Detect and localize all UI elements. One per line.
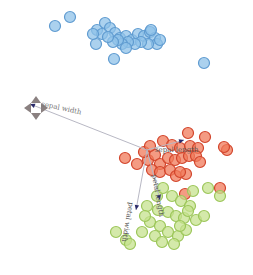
data-point-virginica	[199, 211, 210, 222]
data-point-setosa	[199, 58, 210, 69]
data-point-setosa	[50, 21, 61, 32]
points-layer	[50, 12, 233, 250]
label-sepal-width: sepal width	[41, 100, 83, 116]
label-sepal-length: sepal length	[155, 146, 199, 154]
data-point-virginica	[142, 201, 153, 212]
data-point-setosa	[155, 35, 166, 46]
data-point-virginica	[111, 227, 122, 238]
data-point-versicolor	[200, 132, 211, 143]
label-petal-width: petal width	[120, 202, 135, 243]
data-point-versicolor	[132, 159, 143, 170]
data-point-setosa	[65, 12, 76, 23]
data-point-versicolor	[175, 167, 186, 178]
data-point-virginica	[137, 227, 148, 238]
data-point-virginica	[140, 211, 151, 222]
data-point-versicolor	[195, 157, 206, 168]
data-point-setosa	[146, 25, 157, 36]
data-point-setosa	[91, 39, 102, 50]
data-point-versicolor	[219, 142, 230, 153]
data-point-virginica	[183, 206, 194, 217]
data-point-setosa	[103, 32, 114, 43]
data-point-virginica	[163, 227, 174, 238]
data-point-setosa	[121, 43, 132, 54]
data-point-setosa	[88, 29, 99, 40]
data-point-virginica	[175, 221, 186, 232]
data-point-versicolor	[120, 153, 131, 164]
loading-arrow-sepal-width	[30, 104, 147, 150]
data-point-virginica	[188, 186, 199, 197]
chart-canvas: sepal width sepal length petal length pe…	[0, 0, 253, 275]
data-point-virginica	[157, 237, 168, 248]
data-point-versicolor	[183, 128, 194, 139]
data-point-virginica	[215, 191, 226, 202]
biplot-chart: sepal width sepal length petal length pe…	[0, 0, 253, 275]
data-point-virginica	[203, 183, 214, 194]
data-point-virginica	[169, 239, 180, 250]
data-point-setosa	[109, 54, 120, 65]
